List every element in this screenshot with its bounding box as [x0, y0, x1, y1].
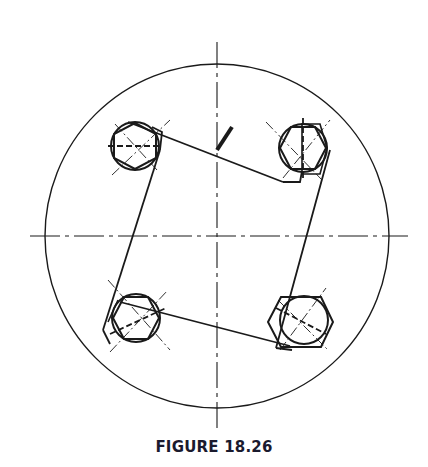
bolt-bottom-left [108, 280, 170, 352]
bolt-flange-diagram [0, 0, 428, 467]
bolt-top-right [266, 118, 330, 180]
weld-symbol [217, 127, 232, 150]
figure-caption: FIGURE 18.26 [0, 438, 428, 456]
bolt-bottom-right [268, 288, 333, 350]
